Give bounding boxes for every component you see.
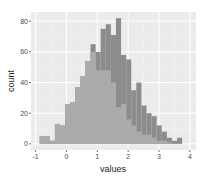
histogram-bar [157, 141, 162, 144]
histogram-bar [85, 61, 90, 144]
histogram-bar [50, 141, 55, 144]
histogram-bar [126, 119, 131, 144]
histogram-bar [152, 138, 157, 144]
histogram-bar [141, 135, 146, 144]
histogram-bar [162, 141, 167, 144]
x-tick-label: 3 [157, 153, 161, 160]
histogram-bar [70, 102, 75, 143]
histogram-bar [111, 83, 116, 144]
histogram-bar [96, 70, 101, 144]
histogram-bar [167, 142, 172, 144]
y-axis-title: count [6, 69, 16, 92]
histogram-chart: 020406080 -101234 values count [0, 0, 202, 182]
y-axis: 020406080 [20, 18, 31, 148]
x-tick-label: 1 [95, 153, 99, 160]
histogram-bar [106, 70, 111, 144]
histogram-bar [65, 104, 70, 144]
y-tick-label: 40 [20, 79, 28, 86]
x-tick-label: 4 [188, 153, 192, 160]
x-tick-label: 0 [65, 153, 69, 160]
x-tick-label: -1 [33, 153, 39, 160]
x-axis: -101234 [33, 150, 192, 160]
histogram-bar [45, 136, 50, 144]
histogram-bar [60, 125, 65, 143]
histogram-bar [80, 76, 85, 143]
histogram-bar [91, 52, 96, 144]
histogram-bar [131, 125, 136, 143]
histogram-bar [101, 70, 106, 144]
histogram-bar [55, 124, 60, 144]
histogram-bar [75, 87, 80, 144]
histogram-bar [172, 141, 177, 144]
x-tick-label: 2 [126, 153, 130, 160]
y-tick-label: 80 [20, 18, 28, 25]
x-axis-title: values [100, 164, 127, 174]
histogram-bar [116, 107, 121, 144]
histogram-bar [121, 104, 126, 144]
histogram-bar [177, 138, 182, 144]
histogram-bar [136, 132, 141, 144]
histogram-bar [147, 135, 152, 144]
y-tick-label: 20 [20, 110, 28, 117]
y-tick-label: 0 [24, 140, 28, 147]
histogram-bar [40, 136, 45, 144]
y-tick-label: 60 [20, 48, 28, 55]
